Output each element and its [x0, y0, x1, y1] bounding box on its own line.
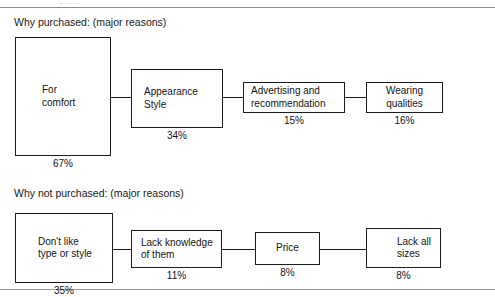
connector-purchased-1-2 [110, 97, 132, 98]
connector-not-purchased-1-2 [112, 249, 132, 250]
node-label-dont-like-type-or-style: Don't like type or style [16, 236, 112, 261]
value-label-for-comfort: 67% [15, 158, 111, 170]
node-label-lack-knowledge: Lack knowledge of them [132, 237, 221, 262]
value-label-wearing-qualities: 16% [366, 115, 443, 127]
node-label-price: Price [256, 242, 319, 255]
diagram-page: ... Why purchased: (major reasons) For c… [0, 0, 495, 297]
connector-not-purchased-2-3 [221, 249, 256, 250]
connector-purchased-2-3 [222, 97, 244, 98]
node-wearing-qualities[interactable]: Wearing qualities [366, 82, 443, 113]
value-label-dont-like-type-or-style: 35% [15, 285, 113, 297]
node-lack-knowledge[interactable]: Lack knowledge of them [131, 230, 222, 268]
value-label-lack-knowledge: 11% [131, 270, 222, 282]
node-label-lack-all-sizes: Lack all sizes [367, 236, 440, 261]
node-label-appearance-style: Appearance Style [132, 86, 222, 111]
section-title-not-purchased: Why not purchased: (major reasons) [14, 187, 184, 199]
connector-purchased-3-4 [344, 97, 367, 98]
node-lack-all-sizes[interactable]: Lack all sizes [366, 228, 441, 268]
value-label-price: 8% [255, 267, 320, 279]
node-label-advertising-recommendation: Advertising and recommendation [244, 85, 344, 110]
page-rule-top [0, 7, 495, 8]
value-label-appearance-style: 34% [131, 130, 223, 142]
node-dont-like-type-or-style[interactable]: Don't like type or style [15, 213, 113, 283]
section-title-purchased: Why purchased: (major reasons) [14, 16, 166, 28]
node-label-for-comfort: For comfort [16, 84, 110, 109]
node-advertising-recommendation[interactable]: Advertising and recommendation [243, 82, 345, 113]
value-label-lack-all-sizes: 8% [366, 270, 441, 282]
value-label-advertising-recommendation: 15% [243, 115, 345, 127]
node-for-comfort[interactable]: For comfort [15, 37, 111, 156]
node-appearance-style[interactable]: Appearance Style [131, 69, 223, 128]
clipped-header-text: ... [60, 0, 86, 6]
clipped-header-fragment: ... [0, 0, 495, 6]
node-label-wearing-qualities: Wearing qualities [367, 85, 442, 110]
connector-not-purchased-3-4 [319, 249, 367, 250]
node-price[interactable]: Price [255, 232, 320, 265]
